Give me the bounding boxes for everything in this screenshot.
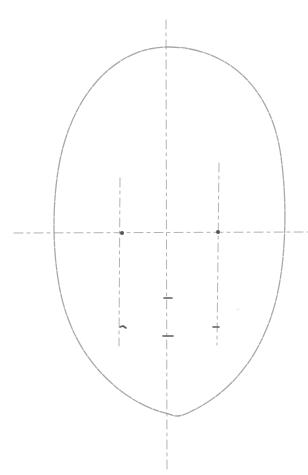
horizontal-eye-line <box>14 232 308 233</box>
right-eye-mark <box>216 230 220 234</box>
head-oval <box>54 47 285 416</box>
right-eye-guide <box>217 163 219 345</box>
vertical-center-line <box>166 20 167 470</box>
left-eye-guide <box>119 178 120 346</box>
left-mouth-corner-mark <box>120 326 126 328</box>
face-proportion-sketch <box>0 0 308 475</box>
stray-pencil-stroke <box>237 309 239 310</box>
left-eye-mark <box>120 231 124 235</box>
